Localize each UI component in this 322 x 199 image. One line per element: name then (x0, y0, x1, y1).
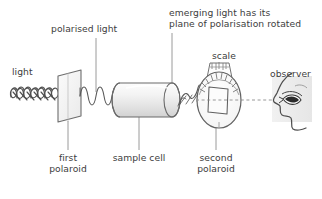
label-emerging-line2: plane of polarisation rotated (169, 18, 301, 29)
label-first-polaroid: firstpolaroid (41, 152, 95, 175)
label-second-polaroid-line1: second (199, 152, 232, 163)
analyser-window (208, 87, 228, 114)
label-polarised-light: polarised light (51, 23, 117, 34)
label-first-polaroid-line2: polaroid (49, 163, 87, 174)
unpolarised-light-scribble (11, 87, 59, 100)
label-emerging-line1: emerging light has its (169, 7, 270, 18)
label-second-polaroid-line2: polaroid (197, 163, 235, 174)
polarimeter-diagram: light polarised light emerging light has… (0, 0, 322, 199)
label-emerging-light: emerging light has itsplane of polarisat… (169, 7, 301, 30)
observer-face (272, 73, 312, 130)
first-polaroid-plate (58, 70, 81, 122)
label-first-polaroid-line1: first (59, 152, 77, 163)
label-scale: scale (212, 50, 236, 61)
label-light: light (12, 66, 33, 77)
label-observer: observer (270, 68, 311, 79)
label-second-polaroid: secondpolaroid (185, 152, 247, 175)
label-sample-cell: sample cell (106, 152, 172, 163)
sample-cell-cylinder (112, 83, 180, 117)
